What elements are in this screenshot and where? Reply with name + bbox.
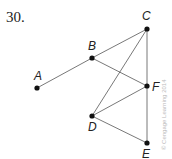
copyright-credit: © Cengage Learning 2014: [161, 80, 167, 150]
label-a: A: [33, 69, 42, 83]
point-e: [144, 140, 149, 145]
point-c: [144, 26, 149, 31]
point-f: [144, 83, 149, 88]
segment-de: [92, 116, 147, 143]
label-e: E: [142, 147, 151, 159]
segment-df: [92, 86, 147, 116]
label-c: C: [142, 9, 151, 23]
segment-cd: [92, 29, 147, 116]
label-f: F: [152, 80, 160, 94]
point-d: [89, 113, 94, 118]
label-b: B: [88, 39, 96, 53]
segment-ab: [37, 58, 92, 88]
point-b: [89, 55, 94, 60]
point-a: [34, 85, 39, 90]
label-d: D: [88, 120, 97, 134]
segment-bc: [92, 29, 147, 58]
graph-diagram: A B C D E F: [0, 0, 172, 159]
